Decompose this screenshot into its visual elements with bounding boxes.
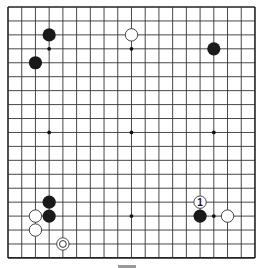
black-stone[interactable]: [29, 56, 42, 69]
black-stone[interactable]: [193, 210, 206, 223]
white-stone[interactable]: [221, 210, 233, 222]
white-stone[interactable]: [29, 210, 41, 222]
go-board: 1: [0, 0, 263, 268]
white-stone[interactable]: 1: [194, 196, 206, 208]
white-stone[interactable]: [125, 29, 137, 41]
white-stone[interactable]: [57, 238, 69, 250]
star-point: [47, 47, 51, 51]
star-point: [47, 131, 51, 135]
star-point: [130, 131, 134, 135]
black-stone[interactable]: [207, 42, 220, 55]
star-point: [130, 214, 134, 218]
white-stone[interactable]: [29, 224, 41, 236]
star-point: [212, 131, 216, 135]
move-number-label: 1: [197, 197, 203, 208]
star-point: [212, 214, 216, 218]
black-stone[interactable]: [43, 28, 56, 41]
black-stone[interactable]: [43, 210, 56, 223]
star-point: [130, 47, 134, 51]
black-stone[interactable]: [43, 196, 56, 209]
